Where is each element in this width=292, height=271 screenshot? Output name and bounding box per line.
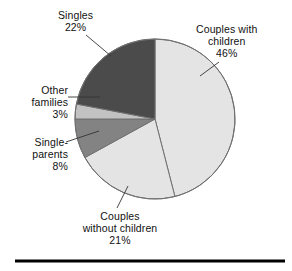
pie-label-couples-without-children-line2: without children <box>56 222 184 234</box>
pie-label-couples-with-children-line1: Couples with <box>196 23 257 35</box>
pie-label-singles-value: 22% <box>58 21 93 33</box>
pie-label-other-families-line2: families <box>6 96 68 108</box>
pie-label-single-parents: Single- parents 8% <box>4 136 68 173</box>
pie-label-couples-with-children: Couples with children 46% <box>196 23 257 60</box>
pie-chart-figure: Couples with children 46% Singles 22% Ot… <box>0 0 292 271</box>
pie-label-single-parents-value: 8% <box>4 160 68 172</box>
pie-label-couples-without-children-line1: Couples <box>56 210 184 222</box>
leader-line-singles <box>86 35 111 56</box>
pie-label-single-parents-line2: parents <box>4 148 68 160</box>
pie-label-couples-without-children: Couples without children 21% <box>56 210 184 247</box>
pie-label-couples-without-children-value: 21% <box>56 234 184 246</box>
pie-label-other-families-value: 3% <box>6 108 68 120</box>
pie-label-single-parents-line1: Single- <box>4 136 68 148</box>
pie-slices <box>75 39 235 199</box>
pie-label-singles: Singles 22% <box>58 9 93 33</box>
pie-label-other-families-line1: Other <box>6 84 68 96</box>
pie-label-couples-with-children-value: 46% <box>196 47 257 59</box>
pie-label-singles-line1: Singles <box>58 9 93 21</box>
pie-label-couples-with-children-line2: children <box>196 35 257 47</box>
pie-label-other-families: Other families 3% <box>6 84 68 121</box>
